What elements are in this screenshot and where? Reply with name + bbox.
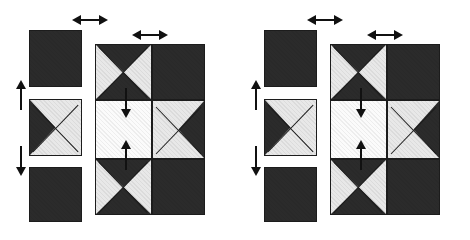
grid-cell-r0c1 (152, 44, 205, 100)
arrow-tiles-horizontal (72, 13, 108, 27)
arrow-head-right (159, 30, 168, 40)
arrow-shaft (360, 147, 362, 170)
arrow-head-right (394, 30, 403, 40)
arrow-head (356, 109, 366, 118)
arrow-head (16, 80, 26, 89)
grid-cell-r1c1 (152, 100, 205, 159)
arrow-center-up (119, 140, 132, 170)
arrow-tiles-down (249, 146, 262, 176)
figure-canvas (0, 0, 470, 240)
arrow-shaft (375, 34, 395, 36)
arrow-head (251, 167, 261, 176)
arrow-head-left (307, 15, 316, 25)
right-panel (235, 0, 470, 240)
loose-tile-middle (264, 99, 317, 156)
arrow-head (251, 80, 261, 89)
main-grid (330, 44, 440, 215)
arrow-head-left (72, 15, 81, 25)
arrow-grid-horizontal (367, 28, 403, 42)
arrow-center-down (354, 88, 367, 118)
grid-cell-r0c1 (387, 44, 440, 100)
arrow-head (121, 140, 131, 149)
arrow-tiles-up (249, 80, 262, 110)
arrow-head-right (334, 15, 343, 25)
arrow-shaft (140, 34, 160, 36)
grid-cell-r2c1 (152, 159, 205, 215)
loose-tile-top (264, 30, 317, 87)
loose-tile-middle (29, 99, 82, 156)
arrow-head-left (132, 30, 141, 40)
arrow-shaft (80, 19, 100, 21)
loose-tile-bottom (29, 167, 82, 222)
arrow-shaft (20, 146, 22, 169)
arrow-head-right (99, 15, 108, 25)
arrow-shaft (125, 88, 127, 111)
arrow-head (121, 109, 131, 118)
left-panel (0, 0, 235, 240)
arrow-shaft (255, 146, 257, 169)
arrow-shaft (315, 19, 335, 21)
grid-cell-r1c1 (387, 100, 440, 159)
arrow-center-up (354, 140, 367, 170)
arrow-head (356, 140, 366, 149)
loose-tile-bottom (264, 167, 317, 222)
loose-tile-top (29, 30, 82, 87)
arrow-head (16, 167, 26, 176)
main-grid (95, 44, 205, 215)
arrow-tiles-up (14, 80, 27, 110)
arrow-shaft (20, 87, 22, 110)
arrow-head-left (367, 30, 376, 40)
arrow-center-down (119, 88, 132, 118)
grid-cell-r2c1 (387, 159, 440, 215)
arrow-shaft (125, 147, 127, 170)
arrow-tiles-horizontal (307, 13, 343, 27)
arrow-tiles-down (14, 146, 27, 176)
arrow-shaft (255, 87, 257, 110)
arrow-shaft (360, 88, 362, 111)
arrow-grid-horizontal (132, 28, 168, 42)
